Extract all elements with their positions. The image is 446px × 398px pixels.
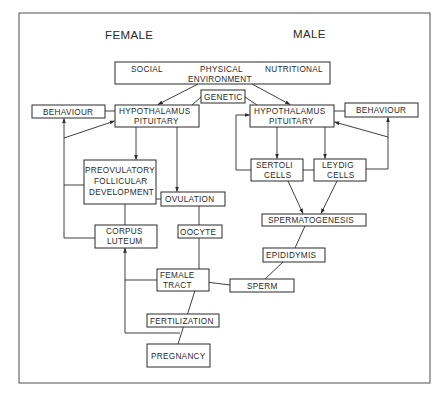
sperm-label: SPERM [247,282,278,291]
pregnancy-label: PREGNANCY [151,352,206,361]
fertilization-label: FERTILIZATION [150,317,214,326]
preovulatory-box: PREOVULATORY FOLLICULAR DEVELOPMENT [84,160,156,204]
environment-nutritional: NUTRITIONAL [265,65,323,74]
spermatogenesis-box: SPERMATOGENESIS [262,214,366,226]
sertoli-label: SERTOLI [256,161,293,170]
male-pituitary-label: PITUITARY [269,117,314,126]
sertoli-box: SERTOLI CELLS [251,159,303,181]
luteum-label: LUTEUM [107,237,142,246]
female-tract-box: FEMALE TRACT [157,269,209,291]
female-pituitary-label: PITUITARY [134,117,179,126]
female-behaviour-box: BEHAVIOUR [32,105,105,118]
pregnancy-box: PREGNANCY [147,344,210,367]
female-behaviour-label: BEHAVIOUR [43,108,93,117]
female-tract-label-2: TRACT [163,281,192,290]
fertilization-box: FERTILIZATION [147,314,219,327]
environment-physical: PHYSICAL [200,65,243,74]
male-behaviour-label: BEHAVIOUR [356,106,406,115]
environment-box: SOCIAL PHYSICAL NUTRITIONAL ENVIRONMENT [115,62,330,84]
corpus-label: CORPUS [106,227,143,236]
epididymis-box: EPIDIDYMIS [263,248,325,262]
genetic-box: GENETIC [201,90,245,103]
development-label: DEVELOPMENT [89,188,154,197]
ovulation-label: OVULATION [165,195,214,204]
sertoli-cells-label: CELLS [264,171,292,180]
heading-female: FEMALE [105,29,153,41]
epididymis-label: EPIDIDYMIS [266,251,317,260]
male-hypothalamus-box: HYPOTHALAMUS PITUITARY [250,105,334,127]
environment-label: ENVIRONMENT [188,75,252,84]
leydig-label: LEYDIG [322,161,354,170]
female-tract-label-1: FEMALE [160,271,195,280]
oocyte-label: OOCYTE [180,228,217,237]
male-hypothalamus-label: HYPOTHALAMUS [254,107,326,116]
female-hypothalamus-label: HYPOTHALAMUS [119,107,191,116]
genetic-label: GENETIC [204,93,243,102]
spermatogenesis-label: SPERMATOGENESIS [268,216,354,225]
corpus-luteum-box: CORPUS LUTEUM [95,225,157,248]
male-behaviour-box: BEHAVIOUR [345,103,418,117]
environment-social: SOCIAL [131,65,163,74]
female-hypothalamus-box: HYPOTHALAMUS PITUITARY [115,105,199,127]
preovulatory-label: PREOVULATORY [85,166,155,175]
reproduction-flow-diagram: FEMALE MALE [0,0,446,398]
oocyte-box: OOCYTE [178,225,222,238]
heading-male: MALE [293,28,326,40]
ovulation-box: OVULATION [161,192,225,206]
follicular-label: FOLLICULAR [94,177,148,186]
sperm-box: SPERM [230,279,294,292]
leydig-cells-label: CELLS [327,171,355,180]
leydig-box: LEYDIG CELLS [314,159,366,181]
